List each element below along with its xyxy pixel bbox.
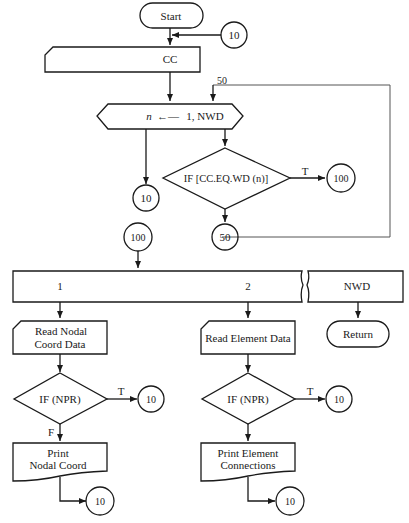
connector-10-npr2-label: 10 — [334, 393, 344, 406]
print-nodal-line2: Nodal Coord — [29, 459, 86, 472]
return-label: Return — [343, 328, 373, 341]
cc-label: CC — [163, 53, 178, 66]
if-npr-2-true: T — [307, 385, 314, 398]
if-cc-true-label: T — [302, 165, 309, 178]
flowchart-canvas — [0, 0, 409, 523]
read-nodal-line1: Read Nodal — [35, 325, 87, 338]
loop-label-50: 50 — [217, 74, 227, 87]
if-npr-1-label: IF (NPR) — [39, 393, 80, 406]
if-cc-label: IF [CC.EQ.WD (n)] — [184, 172, 269, 185]
connector-50-label: 50 — [220, 231, 231, 244]
loop-range: 1, NWD — [186, 110, 223, 123]
print-element-line2: Connections — [221, 459, 276, 472]
connector-10-top-label: 10 — [229, 29, 240, 42]
if-npr-1-false: F — [48, 426, 54, 439]
connector-10-print2-label: 10 — [285, 495, 295, 508]
connector-10-npr1-label: 10 — [146, 393, 156, 406]
read-nodal-line2: Coord Data — [34, 338, 85, 351]
case-1-label: 1 — [57, 280, 63, 293]
if-npr-1-true: T — [118, 385, 125, 398]
case-2-label: 2 — [245, 280, 251, 293]
loop-arrow: ←— — [157, 110, 179, 123]
case-nwd-label: NWD — [344, 280, 370, 293]
start-label: Start — [161, 10, 182, 23]
read-element-label: Read Element Data — [205, 332, 291, 345]
connector-100-right-label: 100 — [334, 172, 349, 185]
if-npr-2-label: IF (NPR) — [227, 393, 268, 406]
connector-10-exit-label: 10 — [141, 192, 152, 205]
loop-var: n — [146, 110, 152, 123]
connector-100-entry-label: 100 — [131, 231, 146, 244]
connector-10-print1-label: 10 — [95, 495, 105, 508]
